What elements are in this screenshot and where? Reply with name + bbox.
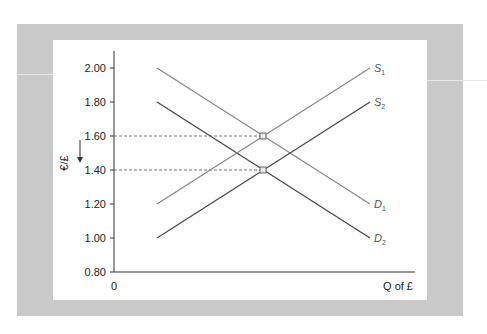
y-tick-1.60: 1.60	[85, 130, 106, 142]
y-tick-1.40: 1.40	[85, 164, 106, 176]
y-tick-1.80: 1.80	[85, 96, 106, 108]
equilibrium-marker-2	[260, 167, 266, 173]
label-s1: S1	[374, 62, 385, 76]
y-tick-2.00: 2.00	[85, 62, 106, 74]
label-s2: S2	[374, 96, 385, 110]
y-tick-0.80: 0.80	[85, 266, 106, 278]
chart-svg: 2.00 1.80 1.60 1.40 1.20 1.00 0.80 0 €/£…	[0, 0, 487, 334]
equilibrium-marker-1	[260, 133, 266, 139]
y-tick-1.00: 1.00	[85, 232, 106, 244]
y-ticks	[110, 68, 114, 272]
x-origin-label: 0	[111, 280, 117, 292]
y-tick-1.20: 1.20	[85, 198, 106, 210]
down-arrow-icon	[77, 140, 83, 163]
label-d2: D2	[374, 232, 386, 246]
y-axis-label: €/£	[58, 155, 70, 170]
x-axis-label: Q of £	[383, 280, 413, 292]
y-tick-labels: 2.00 1.80 1.60 1.40 1.20 1.00 0.80	[85, 62, 106, 278]
label-d1: D1	[374, 198, 386, 212]
